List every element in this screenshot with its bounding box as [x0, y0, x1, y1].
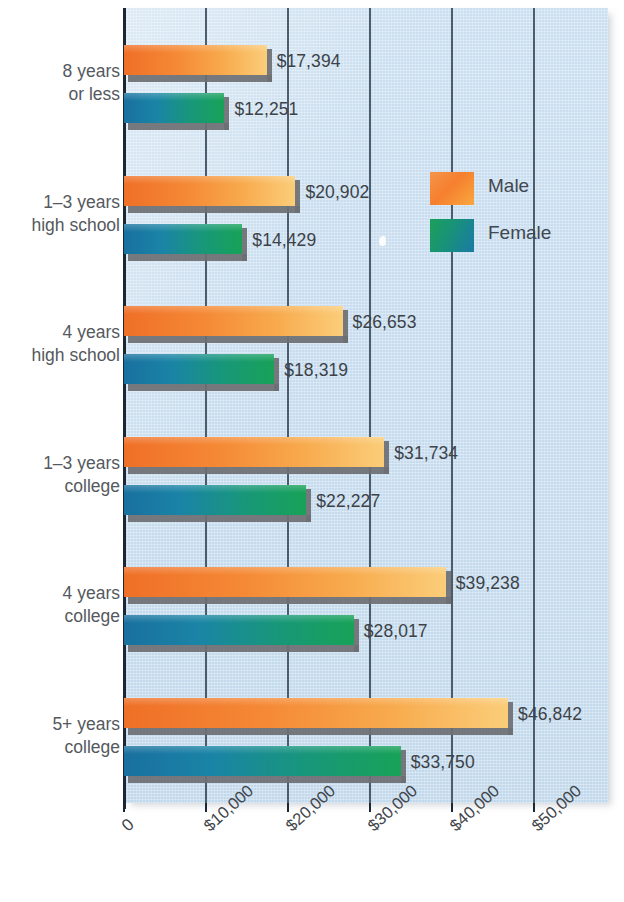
value-label-male-0: $17,394: [277, 51, 341, 72]
bar-gloss: [124, 698, 508, 706]
bar-side-shadow: [295, 180, 300, 213]
bar-gloss: [124, 437, 384, 445]
x-tick-20000: [287, 803, 289, 812]
category-label-4: 4 yearscollege: [8, 582, 120, 628]
legend-label-male: Male: [488, 175, 529, 197]
bar-gloss: [124, 176, 295, 184]
legend-label-female: Female: [488, 222, 551, 244]
bar-male-5[interactable]: [124, 698, 508, 728]
value-label-male-3: $31,734: [394, 443, 458, 464]
bar-male-2[interactable]: [124, 306, 343, 336]
bar-fill: [124, 746, 401, 776]
gridline-20000: [287, 8, 289, 803]
bar-side-shadow: [267, 49, 272, 82]
bar-shadow: [128, 384, 279, 391]
bar-shadow: [128, 515, 311, 522]
bar-shadow: [128, 206, 300, 213]
value-label-female-2: $18,319: [284, 360, 348, 381]
bar-shadow: [128, 75, 272, 82]
bar-shadow: [128, 123, 229, 130]
bar-fill: [124, 485, 306, 515]
bar-male-3[interactable]: [124, 437, 384, 467]
bar-fill: [124, 93, 224, 123]
category-label-1: 1–3 yearshigh school: [8, 191, 120, 237]
category-label-3: 1–3 yearscollege: [8, 452, 120, 498]
bar-female-5[interactable]: [124, 746, 401, 776]
x-tick-label-0: 0: [118, 815, 138, 836]
bar-shadow: [128, 336, 348, 343]
bar-gloss: [124, 567, 446, 575]
bar-gloss: [124, 93, 224, 101]
category-label-2: 4 yearshigh school: [8, 321, 120, 367]
bar-fill: [124, 354, 274, 384]
bar-male-1[interactable]: [124, 176, 295, 206]
value-label-female-5: $33,750: [411, 752, 475, 773]
bar-shadow: [128, 254, 247, 261]
female-swatch-icon: [430, 219, 474, 252]
bar-fill: [124, 306, 343, 336]
bar-female-3[interactable]: [124, 485, 306, 515]
bar-gloss: [124, 45, 267, 53]
bar-female-0[interactable]: [124, 93, 224, 123]
gridline-50000: [533, 8, 535, 803]
bar-gloss: [124, 306, 343, 314]
bar-chart: $17,394$20,902$26,653$31,734$39,238$46,8…: [0, 0, 624, 902]
bar-shadow: [128, 776, 406, 783]
bar-female-2[interactable]: [124, 354, 274, 384]
bar-female-4[interactable]: [124, 615, 354, 645]
value-label-male-5: $46,842: [518, 704, 582, 725]
bar-gloss: [124, 224, 242, 232]
bar-shadow: [128, 728, 513, 735]
value-label-female-0: $12,251: [234, 99, 298, 120]
bar-side-shadow: [274, 358, 279, 391]
bar-fill: [124, 437, 384, 467]
bar-side-shadow: [508, 702, 513, 735]
category-label-5: 5+ yearscollege: [8, 713, 120, 759]
value-label-female-3: $22,227: [316, 491, 380, 512]
gridline-40000: [451, 8, 453, 803]
value-label-male-1: $20,902: [305, 182, 369, 203]
y-axis-line: [123, 8, 126, 809]
bar-side-shadow: [224, 97, 229, 130]
bar-side-shadow: [242, 228, 247, 261]
bar-side-shadow: [306, 489, 311, 522]
bar-side-shadow: [384, 441, 389, 474]
bar-gloss: [124, 746, 401, 754]
bar-shadow: [128, 645, 359, 652]
bar-fill: [124, 615, 354, 645]
bar-shadow: [128, 467, 389, 474]
bar-male-0[interactable]: [124, 45, 267, 75]
value-label-female-4: $28,017: [364, 621, 428, 642]
value-label-male-2: $26,653: [353, 312, 417, 333]
paper-speck: [379, 236, 386, 246]
x-tick-10000: [205, 803, 207, 812]
bar-fill: [124, 567, 446, 597]
bar-shadow: [128, 597, 451, 604]
bar-gloss: [124, 615, 354, 623]
bar-side-shadow: [354, 619, 359, 652]
bar-side-shadow: [446, 571, 451, 604]
bar-side-shadow: [343, 310, 348, 343]
category-label-0: 8 yearsor less: [8, 60, 120, 106]
gridline-30000: [369, 8, 371, 803]
x-tick-40000: [451, 803, 453, 812]
bar-fill: [124, 698, 508, 728]
male-swatch-icon: [430, 172, 474, 205]
bar-male-4[interactable]: [124, 567, 446, 597]
bar-female-1[interactable]: [124, 224, 242, 254]
bar-fill: [124, 224, 242, 254]
value-label-male-4: $39,238: [456, 573, 520, 594]
bar-fill: [124, 176, 295, 206]
x-tick-50000: [533, 803, 535, 812]
bar-gloss: [124, 485, 306, 493]
bar-fill: [124, 45, 267, 75]
bar-side-shadow: [401, 750, 406, 783]
value-label-female-1: $14,429: [252, 230, 316, 251]
x-tick-30000: [369, 803, 371, 812]
bar-gloss: [124, 354, 274, 362]
